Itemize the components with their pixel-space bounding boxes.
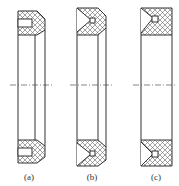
- caption-c: (c): [141, 172, 171, 182]
- seal-b: [70, 8, 112, 166]
- seal-a: [10, 11, 52, 163]
- caption-b: (b): [77, 172, 107, 182]
- seal-drawings: [0, 0, 179, 186]
- seal-c: [133, 8, 177, 166]
- caption-a: (a): [14, 172, 44, 182]
